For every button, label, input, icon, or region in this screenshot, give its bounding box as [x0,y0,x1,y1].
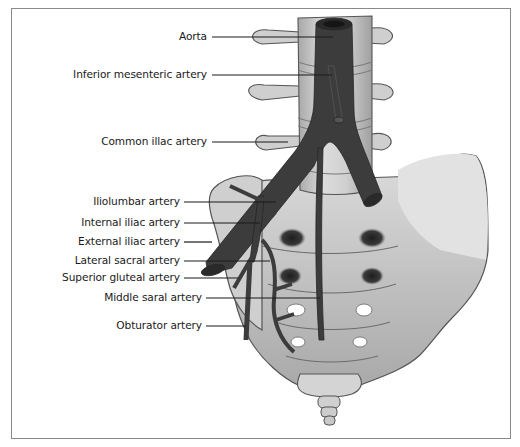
label-inferior-mesenteric-artery: Inferior mesenteric artery [73,68,207,80]
label-internal-iliac-artery: Internal iliac artery [81,216,180,228]
label-middle-sacral-artery: Middle saral artery [104,291,202,303]
label-superior-gluteal-artery: Superior gluteal artery [62,271,180,283]
label-external-iliac-artery: External iliac artery [78,235,180,247]
label-iliolumbar-artery: Iliolumbar artery [93,195,180,207]
label-lateral-sacral-artery: Lateral sacral artery [75,254,180,266]
label-common-iliac-artery: Common illac artery [101,135,207,147]
label-aorta: Aorta [179,30,207,42]
label-obturator-artery: Obturator artery [116,319,202,331]
